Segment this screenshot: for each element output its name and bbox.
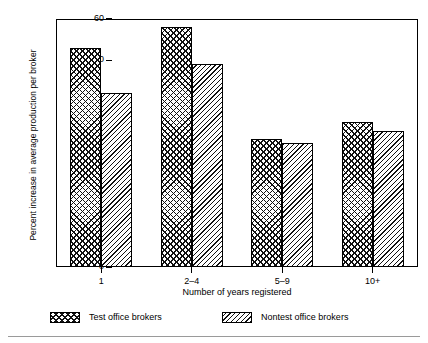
bar-chart-figure: Percent increase in average production p… bbox=[0, 0, 428, 343]
bar-nontest-2–4 bbox=[192, 64, 223, 267]
x-tick-label: 5–9 bbox=[252, 276, 312, 286]
bar-nontest-1 bbox=[101, 93, 132, 267]
bars-layer bbox=[56, 19, 418, 267]
legend-swatch-diagonal-hatch-icon bbox=[222, 312, 252, 323]
x-axis-title: Number of years registered bbox=[56, 287, 418, 297]
x-tick-label: 1 bbox=[71, 276, 131, 286]
bar-test-5–9 bbox=[251, 139, 282, 267]
bar-test-2–4 bbox=[161, 27, 192, 267]
bar-test-10+ bbox=[342, 122, 373, 267]
y-axis-title: Percent increase in average production p… bbox=[28, 20, 38, 270]
legend-label-nontest: Nontest office brokers bbox=[261, 312, 348, 322]
legend-label-test: Test office brokers bbox=[89, 312, 162, 322]
legend-swatch-cross-hatch-icon bbox=[50, 312, 80, 323]
x-tick-mark bbox=[101, 267, 102, 273]
legend-item-nontest: Nontest office brokers bbox=[222, 306, 348, 328]
chart-legend: Test office brokers Nontest office broke… bbox=[0, 306, 428, 328]
legend-item-test: Test office brokers bbox=[50, 306, 162, 328]
bottom-divider bbox=[8, 336, 420, 337]
x-tick-mark bbox=[282, 267, 283, 273]
x-tick-mark bbox=[372, 267, 373, 273]
bar-nontest-5–9 bbox=[282, 143, 313, 267]
x-tick-mark bbox=[191, 267, 192, 273]
x-tick-label: 2–4 bbox=[162, 276, 222, 286]
bar-test-1 bbox=[70, 48, 101, 267]
x-tick-label: 10+ bbox=[343, 276, 403, 286]
bar-nontest-10+ bbox=[373, 131, 404, 267]
